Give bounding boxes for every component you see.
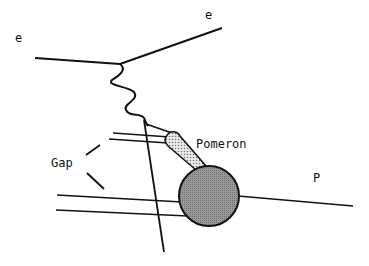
pomeron-label: Pomeron [196,138,247,150]
proton-label: P [313,172,320,184]
photon-wavy-line [111,64,148,126]
diffractive-line-2 [109,139,168,143]
jet-line [144,120,164,252]
diagram-canvas: e e Pomeron Gap P [0,0,369,266]
remnant-line-1 [57,195,182,202]
incoming-electron-line [35,58,120,64]
photon-pomeron-link [146,124,172,133]
proton-blob [179,166,239,226]
gap-label: Gap [51,157,73,169]
proton-line [238,196,353,206]
diffractive-line-1 [113,133,170,137]
gap-marker-upper [86,145,100,155]
electron-out-label: e [205,9,212,21]
electron-in-label: e [15,32,22,44]
gap-marker-lower [87,173,104,189]
outgoing-electron-line [120,28,222,64]
remnant-line-2 [56,210,188,216]
feynman-diagram [0,0,369,266]
